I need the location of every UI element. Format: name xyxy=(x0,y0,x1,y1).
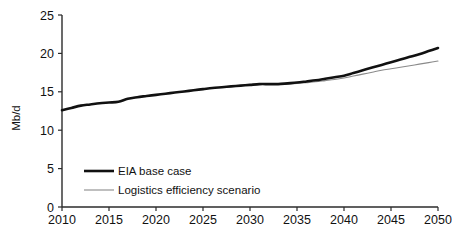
x-tick-label: 2040 xyxy=(330,213,358,227)
x-tick-label: 2025 xyxy=(189,213,217,227)
y-tick-label: 15 xyxy=(40,85,54,99)
x-tick-label: 2020 xyxy=(142,213,170,227)
y-tick-label: 25 xyxy=(40,9,54,23)
y-tick-label: 5 xyxy=(47,162,54,176)
chart-container: 0510152025 20102015202020252030203520402… xyxy=(0,0,452,238)
x-tick-label: 2050 xyxy=(424,213,452,227)
x-axis: 201020152020202520302035204020452050 xyxy=(48,207,452,227)
x-tick-label: 2015 xyxy=(95,213,123,227)
x-tick-label: 2030 xyxy=(236,213,264,227)
x-tick-label: 2045 xyxy=(377,213,405,227)
chart-background xyxy=(0,0,452,238)
y-tick-label: 10 xyxy=(40,124,54,138)
legend-label-logistics-efficiency-scenario: Logistics efficiency scenario xyxy=(118,184,260,196)
x-tick-label: 2035 xyxy=(283,213,311,227)
y-axis-title: Mb/d xyxy=(10,105,22,131)
x-tick-label: 2010 xyxy=(48,213,76,227)
line-chart: 0510152025 20102015202020252030203520402… xyxy=(0,0,452,238)
legend-label-eia-base-case: EIA base case xyxy=(118,165,192,177)
y-tick-label: 20 xyxy=(40,47,54,61)
